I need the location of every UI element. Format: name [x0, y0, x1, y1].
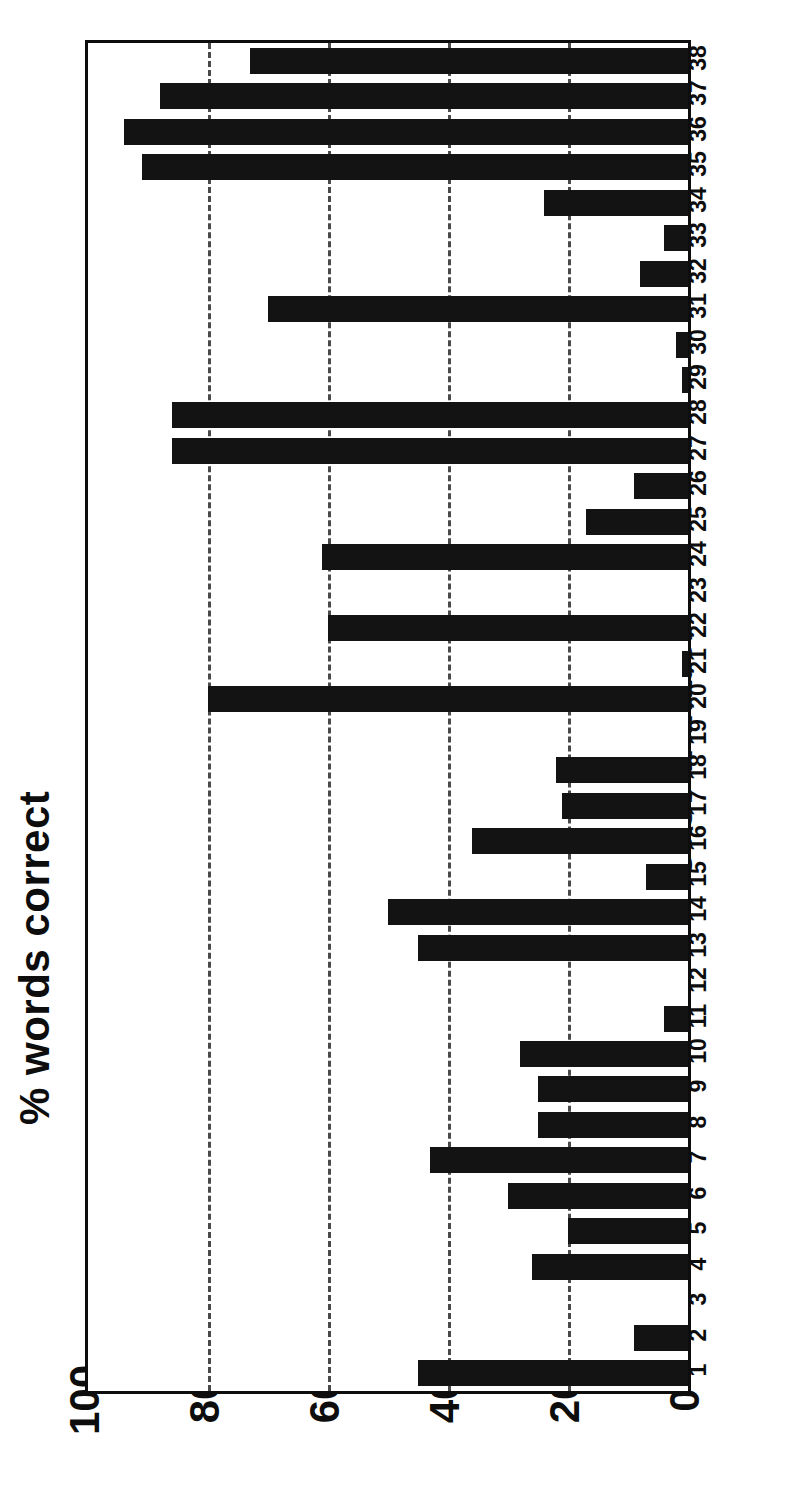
bar-case-18 — [556, 757, 688, 783]
bar-case-8 — [538, 1112, 688, 1138]
bar-case-5 — [568, 1218, 688, 1244]
bar-case-9 — [538, 1076, 688, 1102]
bar-slot — [88, 544, 688, 570]
bar-slot — [88, 1112, 688, 1138]
bar-chart-figure: % words correct Case number 100806040200… — [0, 0, 806, 1487]
bar-slot — [88, 1041, 688, 1067]
bar-slot — [88, 793, 688, 819]
bar-case-22 — [328, 615, 688, 641]
bar-slot — [88, 190, 688, 216]
bar-case-2 — [634, 1325, 688, 1351]
bar-case-1 — [418, 1360, 688, 1386]
bar-slot — [88, 225, 688, 251]
bar-slot — [88, 402, 688, 428]
value-axis-title: % words correct — [0, 725, 70, 1125]
bar-case-34 — [544, 190, 688, 216]
bar-case-20 — [208, 686, 688, 712]
bar-slot — [88, 899, 688, 925]
bar-slot — [88, 1360, 688, 1386]
bar-case-17 — [562, 793, 688, 819]
bar-slot — [88, 154, 688, 180]
bar-slot — [88, 757, 688, 783]
bar-case-13 — [418, 935, 688, 961]
bar-case-37 — [160, 83, 688, 109]
bar-case-28 — [172, 402, 688, 428]
bar-slot — [88, 473, 688, 499]
plot-area — [85, 40, 691, 1394]
bar-slot — [88, 83, 688, 109]
bar-slot — [88, 935, 688, 961]
bar-case-36 — [124, 119, 688, 145]
bar-case-27 — [172, 438, 688, 464]
bar-slot — [88, 1147, 688, 1173]
bar-slot — [88, 615, 688, 641]
bar-case-7 — [430, 1147, 688, 1173]
bar-slot — [88, 686, 688, 712]
bar-slot — [88, 367, 688, 393]
bar-slot — [88, 1325, 688, 1351]
bar-slot — [88, 509, 688, 535]
bar-case-25 — [586, 509, 688, 535]
bar-case-32 — [640, 261, 688, 287]
bar-case-10 — [520, 1041, 688, 1067]
bar-slot — [88, 1183, 688, 1209]
bar-case-38 — [250, 48, 688, 74]
category-tick-38: 38 — [684, 23, 712, 93]
bar-case-31 — [268, 296, 688, 322]
bar-case-4 — [532, 1254, 688, 1280]
bar-case-35 — [142, 154, 688, 180]
plot-inner — [88, 43, 688, 1391]
bar-slot — [88, 651, 688, 677]
bar-slot — [88, 970, 688, 996]
bar-case-15 — [646, 864, 688, 890]
bar-slot — [88, 828, 688, 854]
bar-slot — [88, 1076, 688, 1102]
bar-slot — [88, 1289, 688, 1315]
bar-case-6 — [508, 1183, 688, 1209]
bar-slot — [88, 332, 688, 358]
bar-slot — [88, 261, 688, 287]
bar-slot — [88, 580, 688, 606]
bar-slot — [88, 296, 688, 322]
bar-slot — [88, 48, 688, 74]
bar-slot — [88, 438, 688, 464]
bar-slot — [88, 1006, 688, 1032]
bar-slot — [88, 722, 688, 748]
bar-case-14 — [388, 899, 688, 925]
bar-slot — [88, 119, 688, 145]
bar-slot — [88, 1254, 688, 1280]
bar-case-24 — [322, 544, 688, 570]
bar-case-26 — [634, 473, 688, 499]
bar-slot — [88, 864, 688, 890]
bar-slot — [88, 1218, 688, 1244]
bar-case-16 — [472, 828, 688, 854]
